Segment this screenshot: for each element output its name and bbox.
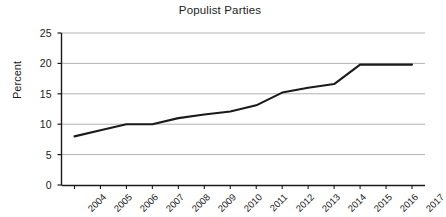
y-tick-label: 5 — [26, 150, 52, 160]
gridlines — [62, 33, 426, 155]
y-tick-label: 10 — [26, 119, 52, 129]
y-tick-label: 15 — [26, 89, 52, 99]
y-tick-label: 0 — [26, 180, 52, 190]
y-tick-label: 25 — [26, 28, 52, 38]
y-tick-label: 20 — [26, 58, 52, 68]
data-series-line — [74, 65, 412, 137]
